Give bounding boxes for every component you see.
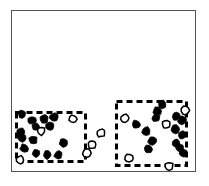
data-point-hollow bbox=[162, 120, 170, 128]
data-point-filled bbox=[43, 151, 51, 159]
data-point-filled bbox=[132, 120, 140, 128]
data-point-hollow bbox=[37, 127, 45, 135]
data-point-filled bbox=[142, 127, 150, 135]
data-point-hollow bbox=[88, 141, 96, 149]
data-point-filled bbox=[59, 139, 67, 147]
data-point-hollow bbox=[83, 149, 91, 157]
data-point-filled bbox=[144, 145, 152, 153]
data-point-filled bbox=[32, 149, 40, 157]
data-point-filled bbox=[178, 116, 186, 124]
data-point-hollow bbox=[125, 154, 133, 162]
data-point-hollow bbox=[97, 129, 105, 137]
data-point-hollow bbox=[16, 156, 24, 164]
data-point-filled bbox=[152, 114, 160, 122]
data-point-filled bbox=[54, 151, 62, 159]
data-point-filled bbox=[20, 144, 28, 152]
data-point-hollow bbox=[181, 106, 189, 114]
data-point-filled bbox=[18, 134, 26, 142]
data-point-filled bbox=[46, 122, 54, 130]
data-point-filled bbox=[18, 110, 26, 118]
data-point-filled bbox=[50, 113, 58, 121]
figure-root bbox=[0, 0, 209, 186]
data-point-filled bbox=[29, 136, 37, 144]
data-point-hollow bbox=[69, 115, 77, 123]
data-point-hollow bbox=[121, 114, 129, 122]
data-point-filled bbox=[179, 149, 187, 157]
data-point-hollow bbox=[165, 162, 173, 170]
